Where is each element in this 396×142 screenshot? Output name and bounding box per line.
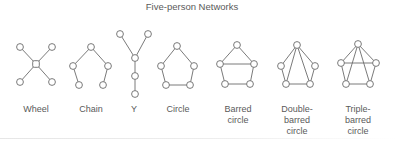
person-node bbox=[373, 60, 380, 67]
label-line: circle bbox=[267, 126, 327, 137]
network-y bbox=[117, 31, 152, 98]
person-node bbox=[17, 44, 24, 51]
person-node bbox=[247, 81, 254, 88]
label-line: circle bbox=[208, 115, 268, 126]
person-node bbox=[278, 63, 285, 70]
person-node bbox=[251, 61, 258, 68]
person-node bbox=[217, 61, 224, 68]
edge bbox=[297, 45, 315, 66]
person-node bbox=[132, 55, 139, 62]
person-node bbox=[49, 44, 56, 51]
label-line: Double- bbox=[267, 104, 327, 115]
label-triple-barred-circle: Triple-barredcircle bbox=[328, 104, 388, 137]
person-node bbox=[70, 63, 77, 70]
edge bbox=[73, 47, 91, 66]
network-barred-circle bbox=[217, 42, 258, 88]
person-node bbox=[338, 60, 345, 67]
label-line: barred bbox=[328, 115, 388, 126]
person-node bbox=[105, 63, 112, 70]
person-node bbox=[343, 81, 350, 88]
person-node bbox=[222, 81, 229, 88]
label-line: circle bbox=[328, 126, 388, 137]
person-node bbox=[367, 81, 374, 88]
person-node bbox=[307, 81, 314, 88]
person-node bbox=[76, 82, 83, 89]
network-double-barred-circle bbox=[278, 42, 319, 88]
network-wheel bbox=[17, 44, 56, 86]
person-node bbox=[33, 61, 40, 68]
person-node bbox=[100, 82, 107, 89]
label-barred-circle: Barredcircle bbox=[208, 104, 268, 126]
person-node bbox=[234, 42, 241, 49]
label-line: Triple- bbox=[328, 104, 388, 115]
label-circle: Circle bbox=[148, 104, 208, 115]
edge bbox=[281, 45, 297, 66]
person-node bbox=[88, 44, 95, 51]
label-wheel: Wheel bbox=[6, 104, 66, 115]
edge bbox=[177, 46, 194, 66]
person-node bbox=[145, 31, 152, 38]
person-node bbox=[158, 63, 165, 70]
person-node bbox=[312, 63, 319, 70]
label-line: Barred bbox=[208, 104, 268, 115]
network-circle bbox=[158, 43, 198, 89]
person-node bbox=[283, 81, 290, 88]
bottom-divider bbox=[0, 138, 396, 139]
person-node bbox=[132, 91, 139, 98]
person-node bbox=[117, 31, 124, 38]
person-node bbox=[355, 41, 362, 48]
edge bbox=[346, 44, 358, 84]
edge bbox=[120, 34, 135, 58]
label-double-barred-circle: Double-barredcircle bbox=[267, 104, 327, 137]
label-line: Circle bbox=[148, 104, 208, 115]
person-node bbox=[49, 79, 56, 86]
person-node bbox=[191, 63, 198, 70]
person-node bbox=[163, 82, 170, 89]
edge bbox=[286, 45, 297, 84]
person-node bbox=[17, 79, 24, 86]
edge bbox=[297, 45, 310, 84]
person-node bbox=[132, 73, 139, 80]
network-chain bbox=[70, 44, 112, 89]
label-line: barred bbox=[267, 115, 327, 126]
person-node bbox=[294, 42, 301, 49]
label-line: Wheel bbox=[6, 104, 66, 115]
edge bbox=[135, 34, 148, 58]
person-node bbox=[174, 43, 181, 50]
network-triple-barred-circle bbox=[338, 41, 380, 88]
person-node bbox=[187, 82, 194, 89]
